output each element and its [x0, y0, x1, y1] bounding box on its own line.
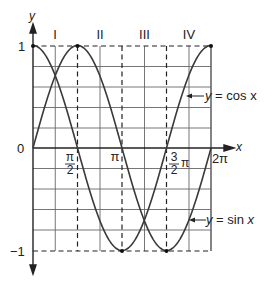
- x-tick-pi-over-2-denominator: 2: [67, 163, 74, 177]
- y-axis-up-arrow-icon: [30, 24, 36, 33]
- y-tick-neg1: −1: [10, 244, 25, 259]
- sin-label-x: x: [247, 212, 255, 227]
- sin-annotation: y = sin x: [189, 212, 255, 227]
- x-tick-pi: π: [111, 149, 120, 164]
- sin-label-rest: = sin: [213, 212, 248, 227]
- quadrant-label-ii: II: [96, 27, 103, 42]
- y-axis-down-arrow-icon: [30, 265, 36, 274]
- x-tick-3pi-over-2-pi: π: [181, 156, 189, 170]
- x-axis-label: x: [235, 140, 243, 154]
- trig-chart: y x 1 0 −1 I II III IV π 2 π 3 2 π 2π y …: [0, 0, 269, 288]
- x-tick-pi-over-2: π 2: [65, 150, 75, 177]
- x-tick-3pi-over-2: 3 2 π: [169, 150, 189, 177]
- y-tick-1: 1: [18, 39, 25, 54]
- cos-annotation: y = cos x: [186, 88, 257, 103]
- cos-label-rest: = cos x: [212, 88, 258, 103]
- y-tick-0: 0: [17, 141, 24, 156]
- svg-text:y = sin x: y = sin x: [205, 212, 255, 227]
- quadrant-label-iv: IV: [183, 27, 196, 42]
- y-axis-label: y: [28, 9, 36, 23]
- x-tick-2pi: 2π: [212, 151, 228, 166]
- svg-text:y = cos x: y = cos x: [204, 88, 257, 103]
- x-tick-pi-over-2-numerator: π: [66, 150, 74, 164]
- quadrant-label-i: I: [53, 27, 57, 42]
- x-tick-3pi-over-2-numerator: 3: [171, 150, 178, 164]
- x-tick-3pi-over-2-denominator: 2: [171, 163, 178, 177]
- quadrant-label-iii: III: [139, 27, 150, 42]
